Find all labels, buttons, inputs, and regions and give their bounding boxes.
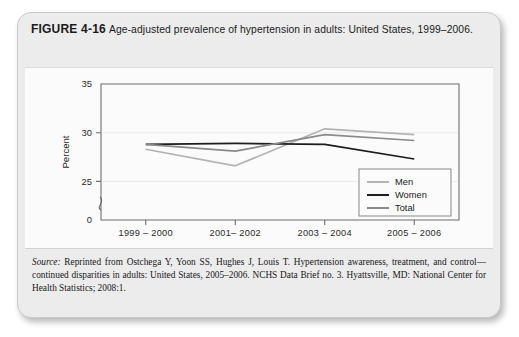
x-tick-label: 2001– 2002 xyxy=(209,228,261,238)
x-tick-label: 2005 – 2006 xyxy=(387,228,441,238)
y-tick-label: 35 xyxy=(82,78,92,89)
source-label: Source: xyxy=(32,257,61,267)
legend-label-total: Total xyxy=(395,203,415,213)
source-text: Reprinted from Ostchega Y, Yoon SS, Hugh… xyxy=(32,257,486,293)
y-tick-label: 0 xyxy=(87,214,92,225)
line-chart: 0253035Percent1999 – 20002001– 20022003 … xyxy=(25,68,493,250)
y-tick-label: 30 xyxy=(82,127,92,138)
chart-panel: 0253035Percent1999 – 20002001– 20022003 … xyxy=(25,67,493,249)
figure-caption-text: Age-adjusted prevalence of hypertension … xyxy=(109,24,473,35)
legend-label-women: Women xyxy=(395,190,427,200)
x-tick-label: 2003 – 2004 xyxy=(298,228,352,238)
figure-label: FIGURE 4-16 xyxy=(31,22,106,36)
source-note: Source: Reprinted from Ostchega Y, Yoon … xyxy=(32,256,486,296)
y-tick-label: 25 xyxy=(82,176,92,187)
legend-label-men: Men xyxy=(395,177,413,187)
series-line-total xyxy=(146,135,415,152)
x-tick-label: 1999 – 2000 xyxy=(119,228,173,238)
chart-svg: 0253035Percent1999 – 20002001– 20022003 … xyxy=(25,68,493,250)
y-axis-title: Percent xyxy=(60,135,71,168)
figure-card: FIGURE 4-16 Age-adjusted prevalence of h… xyxy=(17,12,501,318)
figure-caption: FIGURE 4-16 Age-adjusted prevalence of h… xyxy=(31,22,486,38)
